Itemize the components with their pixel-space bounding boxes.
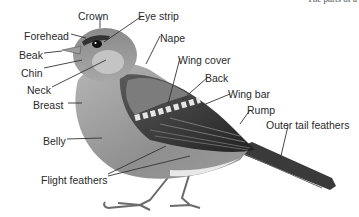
label-belly: Belly (43, 136, 66, 147)
label-outer-tail-feathers: Outer tail feathers (266, 120, 349, 131)
label-crown: Crown (78, 11, 108, 22)
label-beak: Beak (19, 50, 43, 61)
label-chin: Chin (21, 68, 43, 79)
label-eye-strip: Eye strip (138, 11, 179, 22)
label-wing-cover: Wing cover (178, 55, 231, 66)
label-flight-feathers: Flight feathers (41, 175, 108, 186)
bird-anatomy-diagram: The parts of a (0, 0, 359, 217)
label-back: Back (205, 73, 228, 84)
label-rump: Rump (247, 105, 275, 116)
head (62, 28, 137, 82)
label-neck: Neck (27, 85, 51, 96)
label-forehead: Forehead (24, 31, 69, 42)
label-wing-bar: Wing bar (228, 89, 270, 100)
label-nape: Nape (160, 33, 185, 44)
label-breast: Breast (33, 100, 63, 111)
